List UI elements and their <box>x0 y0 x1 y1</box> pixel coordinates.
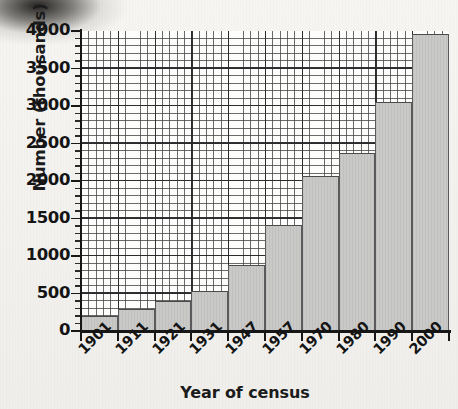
y-axis-minor-tick <box>75 75 80 76</box>
y-axis-minor-tick <box>75 90 80 91</box>
y-axis-minor-tick <box>75 270 80 271</box>
y-axis-minor-tick <box>75 278 80 279</box>
plot-area <box>81 31 449 331</box>
y-axis-minor-tick <box>75 300 80 301</box>
y-axis-tick <box>71 293 80 295</box>
y-axis-tick-label: 1000 <box>0 245 70 264</box>
y-axis-minor-tick <box>75 285 80 286</box>
y-axis-minor-tick <box>75 248 80 249</box>
y-axis-minor-tick <box>75 240 80 241</box>
y-axis-minor-tick <box>75 53 80 54</box>
y-axis-tick-label: 3000 <box>0 95 70 114</box>
y-axis-minor-tick <box>75 233 80 234</box>
y-axis-minor-tick <box>75 128 80 129</box>
y-axis-tick-label: 0 <box>0 320 70 339</box>
y-axis-tick <box>71 218 80 220</box>
y-axis-minor-tick <box>75 158 80 159</box>
y-axis-tick <box>71 143 80 145</box>
y-axis-tick-label: 1500 <box>0 208 70 227</box>
y-axis-tick-label: 2500 <box>0 133 70 152</box>
y-axis-tick-label: 4000 <box>0 20 70 39</box>
y-axis-minor-tick <box>75 323 80 324</box>
y-axis-minor-tick <box>75 60 80 61</box>
y-axis-tick <box>71 330 80 332</box>
y-axis-minor-tick <box>75 150 80 151</box>
y-axis-minor-tick <box>75 263 80 264</box>
y-axis-minor-tick <box>75 98 80 99</box>
y-axis-minor-tick <box>75 83 80 84</box>
y-axis-minor-tick <box>75 315 80 316</box>
bar <box>302 176 339 331</box>
y-axis-tick <box>71 105 80 107</box>
bar-chart: Number (thousands) 050010001500200025003… <box>0 0 458 409</box>
y-axis-tick <box>71 30 80 32</box>
y-axis-minor-tick <box>75 225 80 226</box>
y-axis-minor-tick <box>75 188 80 189</box>
y-axis-tick-label: 3500 <box>0 58 70 77</box>
y-axis-minor-tick <box>75 173 80 174</box>
y-axis-minor-tick <box>75 113 80 114</box>
bar <box>412 34 449 331</box>
y-axis-tick-label: 2000 <box>0 170 70 189</box>
y-axis-minor-tick <box>75 210 80 211</box>
x-axis-title: Year of census <box>80 383 410 402</box>
y-axis-minor-tick <box>75 38 80 39</box>
y-axis-minor-tick <box>75 135 80 136</box>
y-axis-tick-label: 500 <box>0 283 70 302</box>
bar <box>265 225 302 332</box>
y-axis-tick <box>71 68 80 70</box>
y-axis-tick <box>71 255 80 257</box>
bar-series <box>81 31 449 331</box>
bar <box>339 153 376 332</box>
y-axis-minor-tick <box>75 308 80 309</box>
y-axis-minor-tick <box>75 165 80 166</box>
y-axis-tick <box>71 180 80 182</box>
y-axis-minor-tick <box>75 45 80 46</box>
y-axis-minor-tick <box>75 195 80 196</box>
y-axis-minor-tick <box>75 203 80 204</box>
bar <box>375 102 412 331</box>
y-axis-minor-tick <box>75 120 80 121</box>
x-axis-tick <box>448 332 450 341</box>
